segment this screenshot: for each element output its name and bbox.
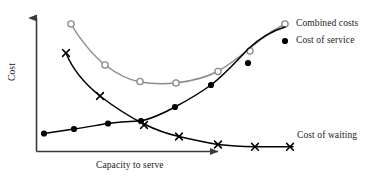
y-axis-title: Cost [7,63,17,81]
data-point [71,126,77,132]
data-point [102,62,108,68]
data-point [245,60,251,66]
y-axis-title-text: Cost [7,63,17,81]
data-point [63,50,70,57]
data-point [97,93,104,100]
data-point [105,120,111,126]
series-cost-of-waiting [63,50,294,151]
data-point [41,130,47,136]
series-cost-of-service-line [44,27,285,134]
series-combined-costs-markers [68,21,288,86]
series-cost-of-service [41,27,288,137]
data-point [172,104,178,110]
data-point [215,68,221,74]
legend-label-cost-of-service: Cost of service [296,35,355,45]
legend-label-cost-of-waiting: Cost of waiting [297,130,357,140]
x-axis-title: Capacity to serve [96,160,164,170]
chart-container: Cost Capacity to serve Combined costs Co… [0,0,380,182]
data-point [208,82,214,88]
axis-group [37,18,219,152]
data-point [282,21,288,27]
data-point [282,38,288,44]
data-point [173,80,179,86]
series-combined-costs-line [71,24,285,84]
data-point [68,21,74,27]
series-combined-costs [68,21,288,86]
series-cost-of-waiting-line [66,53,293,147]
series-cost-of-waiting-markers [63,50,294,151]
data-point [137,78,143,84]
legend-label-combined-costs: Combined costs [296,18,358,28]
